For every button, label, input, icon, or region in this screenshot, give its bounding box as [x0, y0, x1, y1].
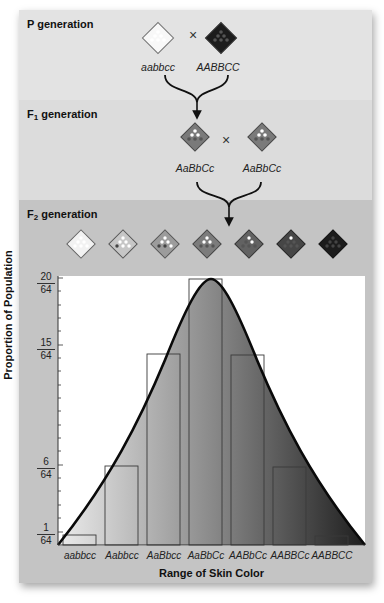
f1-parent-1-genotype: AaBbCc [160, 162, 230, 174]
ytick-15-64: 1564 [37, 338, 55, 361]
x-category-label: aabbcc [57, 550, 103, 561]
x-category-label: Aabbcc [99, 550, 145, 561]
x-category-label: AABbCc [225, 550, 271, 561]
ytick-20-64: 2064 [37, 272, 55, 295]
ytick-1-64: 164 [37, 523, 55, 546]
chart-plot-area [58, 276, 365, 546]
f1-parent-2-genotype: AaBbCc [227, 162, 297, 174]
x-category-label: AaBbcc [141, 550, 187, 561]
x-category-label: AABBCC [309, 550, 355, 561]
f1-cross-symbol: × [222, 132, 230, 148]
p-generation-label: P generation [27, 18, 93, 30]
x-category-label: AABBCc [267, 550, 313, 561]
x-axis-label: Range of Skin Color [58, 567, 365, 579]
x-category-label: AaBbCc [183, 550, 229, 561]
f1-generation-section: F1 generation [19, 100, 372, 200]
p-generation-section: P generation [19, 10, 372, 100]
y-axis-label: Proportion of Population [2, 235, 14, 395]
f1-generation-label: F1 generation [27, 108, 97, 122]
f2-generation-label: F2 generation [27, 208, 97, 222]
p-cross-symbol: × [189, 27, 197, 43]
ytick-6-64: 664 [37, 457, 55, 480]
p-parent-2-genotype: AABBCC [183, 61, 253, 73]
